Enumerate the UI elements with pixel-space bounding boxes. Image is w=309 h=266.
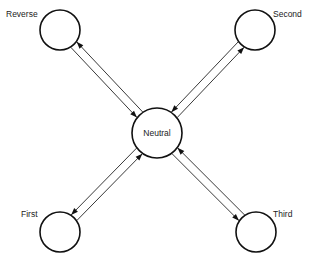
label-neutral: Neutral — [143, 128, 171, 138]
node-first — [40, 212, 80, 252]
edge-first-to-neutral — [77, 154, 143, 221]
node-reverse — [40, 10, 80, 50]
edge-second-to-neutral — [171, 42, 238, 112]
label-first: First — [21, 209, 38, 219]
edge-neutral-to-reverse — [77, 42, 143, 112]
label-third: Third — [273, 209, 293, 219]
label-second: Second — [273, 9, 302, 19]
node-second — [235, 10, 275, 50]
gear-shift-diagram: Neutral Reverse Second First Third — [0, 0, 309, 266]
label-reverse: Reverse — [6, 9, 38, 19]
edge-neutral-to-third — [172, 154, 239, 221]
edge-third-to-neutral — [178, 148, 245, 215]
edge-reverse-to-neutral — [71, 47, 137, 117]
edge-neutral-to-second — [177, 47, 244, 117]
edge-neutral-to-first — [71, 148, 137, 215]
node-third — [236, 212, 276, 252]
